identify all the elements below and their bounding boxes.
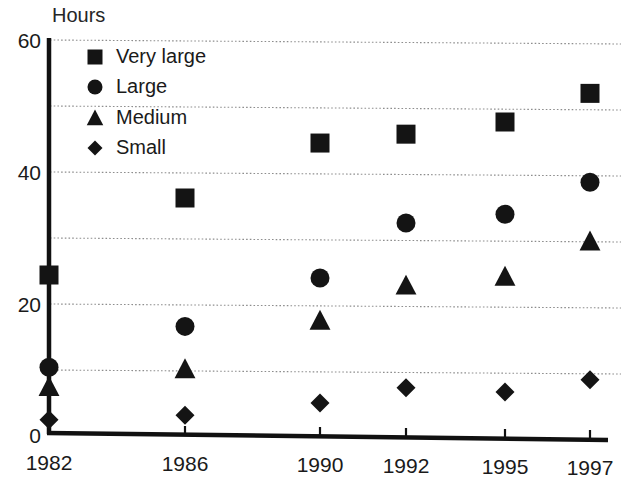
data-point xyxy=(40,266,59,285)
data-point xyxy=(397,214,416,233)
data-point xyxy=(39,376,60,396)
legend-item-very-large[interactable]: Very large xyxy=(88,45,207,67)
x-tick-label-1990: 1990 xyxy=(297,453,344,476)
data-point xyxy=(311,269,330,288)
diamond-marker-icon xyxy=(88,141,103,156)
data-point xyxy=(396,275,417,295)
data-point xyxy=(581,370,600,389)
x-axis-line xyxy=(47,433,608,440)
square-marker-icon xyxy=(88,50,103,65)
gridline-20 xyxy=(50,304,621,308)
triangle-marker-icon xyxy=(87,109,104,125)
data-point xyxy=(311,394,330,413)
legend: Very largeLargeMediumSmall xyxy=(87,45,206,158)
series-small xyxy=(40,370,600,429)
gridline-10 xyxy=(50,370,621,374)
data-point xyxy=(496,113,515,132)
legend-label: Very large xyxy=(116,45,206,67)
chart-canvas: Hours 60 40 20 0 1982 1986 1990 1992 199… xyxy=(0,0,621,483)
data-point xyxy=(495,266,516,286)
data-point xyxy=(175,358,196,378)
legend-item-medium[interactable]: Medium xyxy=(87,106,187,128)
data-point xyxy=(176,317,195,336)
legend-label: Large xyxy=(116,75,167,97)
scatter-chart: Hours 60 40 20 0 1982 1986 1990 1992 199… xyxy=(0,0,621,483)
y-tick-label-60: 60 xyxy=(18,29,41,52)
data-point xyxy=(397,378,416,397)
y-tick-label-40: 40 xyxy=(18,161,41,184)
series-large xyxy=(40,173,600,377)
x-tick-label-1997: 1997 xyxy=(567,456,614,479)
data-point xyxy=(580,231,601,251)
circle-marker-icon xyxy=(88,80,103,95)
data-point xyxy=(496,382,515,401)
axes xyxy=(47,38,608,440)
legend-item-small[interactable]: Small xyxy=(88,136,167,158)
series-medium xyxy=(39,231,601,396)
data-point xyxy=(581,84,600,103)
data-point xyxy=(496,205,515,224)
data-point xyxy=(40,358,59,377)
data-point xyxy=(581,173,600,192)
x-tick-label-1986: 1986 xyxy=(162,452,209,475)
data-point xyxy=(397,125,416,144)
legend-label: Small xyxy=(116,136,166,158)
y-axis-title: Hours xyxy=(52,4,105,26)
data-point xyxy=(40,410,59,429)
y-tick-label-20: 20 xyxy=(18,293,41,316)
x-tick-label-1982: 1982 xyxy=(26,451,73,474)
legend-label: Medium xyxy=(116,106,187,128)
legend-item-large[interactable]: Large xyxy=(88,75,168,97)
gridline-40 xyxy=(50,172,621,176)
data-point xyxy=(176,406,195,425)
data-point xyxy=(310,310,331,330)
gridline-30 xyxy=(50,238,621,242)
data-point xyxy=(176,189,195,208)
y-tick-label-0: 0 xyxy=(29,424,41,447)
x-tick-label-1995: 1995 xyxy=(482,455,529,478)
data-point xyxy=(311,134,330,153)
x-tick-label-1992: 1992 xyxy=(383,454,430,477)
gridline-60 xyxy=(50,40,621,44)
